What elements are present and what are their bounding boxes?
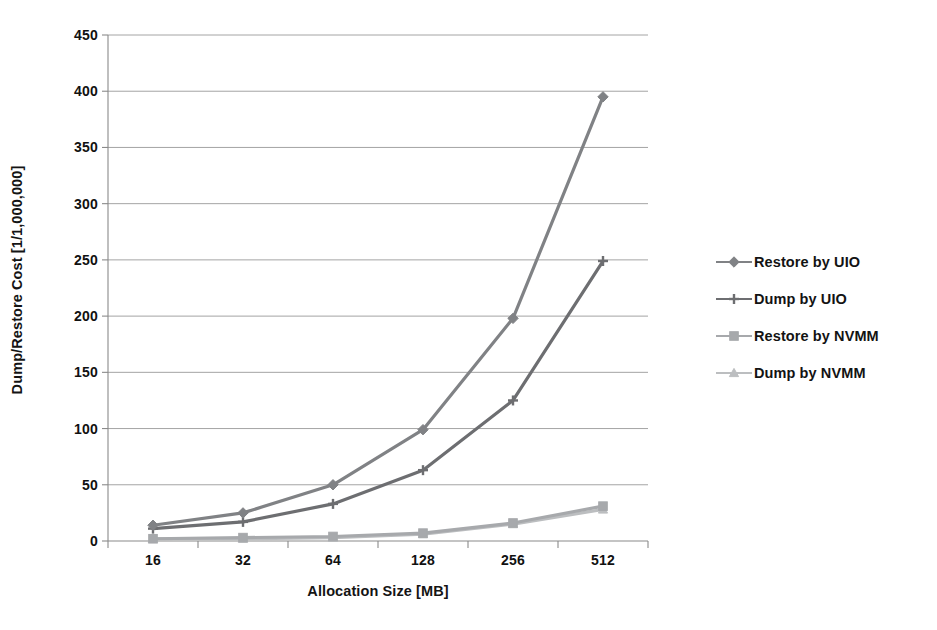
line-chart: Dump/Restore Cost [1/1,000,000] 05010015…	[0, 0, 937, 630]
data-point-marker	[729, 294, 739, 304]
data-point-marker	[239, 533, 248, 542]
data-point-marker	[419, 529, 428, 538]
series-group	[148, 92, 608, 531]
data-point-marker	[238, 508, 248, 518]
triangle-marker-icon	[729, 368, 738, 376]
series-group	[148, 256, 608, 534]
data-point-marker	[729, 256, 739, 266]
legend-item[interactable]: Restore by NVMM	[716, 317, 931, 354]
square-marker-icon	[329, 532, 338, 541]
data-point-marker	[509, 519, 518, 528]
square-marker-icon	[599, 502, 608, 511]
data-point-marker	[329, 532, 338, 541]
data-point-marker	[599, 502, 608, 511]
legend-item[interactable]: Restore by UIO	[716, 243, 931, 280]
series-line	[153, 97, 603, 525]
data-point-marker	[729, 368, 738, 376]
legend-marker-square-icon	[716, 329, 752, 343]
legend-marker-svg	[716, 292, 752, 306]
legend-marker-svg	[716, 366, 752, 380]
legend-marker-svg	[716, 255, 752, 269]
square-marker-icon	[149, 534, 158, 543]
data-point-marker	[328, 499, 338, 509]
x-axis-title-container: Allocation Size [MB]	[108, 582, 648, 600]
data-point-marker	[730, 331, 739, 340]
diamond-marker-icon	[238, 508, 248, 518]
series-line	[153, 261, 603, 529]
legend-label: Dump by NVMM	[754, 365, 866, 381]
legend-marker-triangle-icon	[716, 366, 752, 380]
data-point-marker	[149, 534, 158, 543]
square-marker-icon	[419, 529, 428, 538]
chart-legend: Restore by UIODump by UIORestore by NVMM…	[716, 243, 931, 391]
data-point-marker	[598, 92, 608, 102]
x-axis-title: Allocation Size [MB]	[307, 583, 448, 599]
legend-marker-svg	[716, 329, 752, 343]
legend-item[interactable]: Dump by UIO	[716, 280, 931, 317]
legend-marker-plus-icon	[716, 292, 752, 306]
square-marker-icon	[239, 533, 248, 542]
diamond-marker-icon	[598, 92, 608, 102]
legend-item[interactable]: Dump by NVMM	[716, 354, 931, 391]
legend-label: Restore by UIO	[754, 254, 860, 270]
diamond-marker-icon	[729, 256, 739, 266]
square-marker-icon	[730, 331, 739, 340]
legend-label: Restore by NVMM	[754, 328, 879, 344]
legend-marker-diamond-icon	[716, 255, 752, 269]
square-marker-icon	[509, 519, 518, 528]
legend-label: Dump by UIO	[754, 291, 847, 307]
